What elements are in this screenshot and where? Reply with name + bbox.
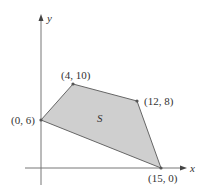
region-label: S bbox=[97, 112, 103, 124]
vertex-label: (12, 8) bbox=[144, 95, 174, 108]
feasible-region-s bbox=[41, 84, 161, 168]
x-axis-label: x bbox=[189, 162, 195, 174]
vertex-label: (0, 6) bbox=[11, 114, 35, 127]
vertex-point bbox=[39, 118, 42, 121]
vertex-point bbox=[159, 166, 162, 169]
diagram-canvas: y x (0, 6) (4, 10) (12, 8) (15, 0) S bbox=[0, 0, 204, 195]
vertex-label: (4, 10) bbox=[61, 69, 91, 82]
y-axis-label: y bbox=[46, 12, 52, 24]
y-axis-arrow-icon bbox=[39, 14, 44, 21]
vertex-label: (15, 0) bbox=[148, 172, 178, 185]
x-axis-arrow-icon bbox=[180, 166, 187, 171]
vertex-point bbox=[71, 82, 74, 85]
vertex-point bbox=[135, 99, 138, 102]
